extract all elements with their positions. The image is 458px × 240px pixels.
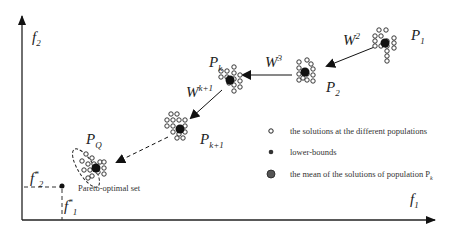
solution-circle xyxy=(225,69,229,73)
solution-circle xyxy=(385,59,389,63)
population-mean-dot xyxy=(92,164,101,173)
solution-circle xyxy=(175,136,179,140)
solution-circle xyxy=(392,41,396,45)
solution-circle xyxy=(171,124,175,128)
solution-circle xyxy=(238,73,242,77)
x-axis-label: f1 xyxy=(410,192,419,210)
label-p2: P2 xyxy=(326,80,340,98)
solution-circle xyxy=(232,89,236,93)
solution-circle xyxy=(102,172,106,176)
population-mean-dot xyxy=(301,68,310,77)
solution-circle xyxy=(305,78,309,82)
solution-circle xyxy=(102,160,106,164)
arrow-pk1-pq xyxy=(117,137,168,162)
label-w2: W2 xyxy=(343,32,360,48)
solution-circle xyxy=(297,66,301,70)
population-mean-dot xyxy=(176,125,185,134)
label-p1: P1 xyxy=(411,28,425,46)
solution-circle xyxy=(175,112,179,116)
solution-circle xyxy=(309,62,313,66)
solution-circle xyxy=(385,54,389,58)
solution-circle xyxy=(82,168,86,172)
solution-circle xyxy=(377,28,381,32)
legend-item-solutions: the solutions at the different populatio… xyxy=(290,127,427,136)
population-mean-dot xyxy=(226,76,235,85)
solution-circle xyxy=(165,118,169,122)
pareto-label: Pareto-optimal set xyxy=(78,183,140,193)
solution-circle xyxy=(219,75,223,79)
label-pk1: Pk+1 xyxy=(200,132,224,150)
solution-circle xyxy=(311,67,315,71)
small-dot-icon xyxy=(269,150,274,155)
solution-circle xyxy=(392,46,396,50)
solution-circle xyxy=(373,39,377,43)
solution-circle xyxy=(392,36,396,40)
large-dot-icon xyxy=(267,170,275,178)
label-f2-star: f*2 xyxy=(30,170,43,189)
solution-circle xyxy=(238,79,242,83)
solution-circle xyxy=(80,159,84,163)
solution-circle xyxy=(311,73,315,77)
arrow-p1-p2 xyxy=(327,46,377,66)
solution-circle xyxy=(84,152,88,156)
solution-circle xyxy=(232,65,236,69)
solution-circle xyxy=(183,118,187,122)
label-pq: PQ xyxy=(86,132,102,150)
solution-circle xyxy=(379,34,383,38)
solution-circle xyxy=(373,44,377,48)
solution-circle xyxy=(86,176,90,180)
solution-circle xyxy=(171,130,175,134)
solution-circle xyxy=(86,162,90,166)
solution-circle xyxy=(373,34,377,38)
solution-circle xyxy=(169,112,173,116)
transition-arrows xyxy=(117,46,377,162)
solution-circle xyxy=(238,85,242,89)
label-w3: W3 xyxy=(265,54,282,70)
label-f1-star: f*1 xyxy=(64,198,77,217)
solution-circle xyxy=(232,71,236,75)
solution-circle xyxy=(90,156,94,160)
solution-circle xyxy=(385,49,389,53)
solution-circle xyxy=(181,136,185,140)
solution-circle xyxy=(297,60,301,64)
solution-circle xyxy=(177,118,181,122)
lower-bound-dot xyxy=(60,184,65,189)
hollow-circle-icon xyxy=(269,129,273,133)
legend-item-lower-bounds: lower-bounds xyxy=(290,148,337,157)
label-pk: Pk xyxy=(209,55,222,73)
solution-circle xyxy=(165,124,169,128)
solution-circle xyxy=(171,118,175,122)
legend-item-mean: the mean of the solutions of population … xyxy=(290,170,433,181)
solution-circle xyxy=(305,58,309,62)
legend-icons xyxy=(267,129,275,178)
solution-circle xyxy=(384,28,388,32)
label-wk1: Wk+1 xyxy=(186,84,213,100)
solution-circle xyxy=(102,166,106,170)
population-mean-dot xyxy=(381,39,390,48)
y-axis-label: f2 xyxy=(32,30,41,48)
solution-circle xyxy=(311,79,315,83)
